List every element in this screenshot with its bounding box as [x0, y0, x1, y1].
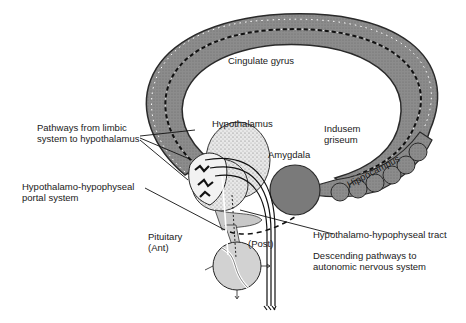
label-pituitary-line2: (Ant) — [148, 242, 169, 253]
amygdala-shape — [270, 165, 320, 215]
label-hypothalamo-hypophyseal-tract: Hypothalamo-hypophyseal tract — [313, 229, 447, 240]
label-hypothalamus: Hypothalamus — [212, 118, 273, 129]
label-descending-line2: autonomic nervous system — [313, 261, 426, 272]
label-cingulate-gyrus: Cingulate gyrus — [228, 55, 294, 66]
label-pathways-line1: Pathways from limbic — [37, 122, 127, 133]
label-indusem-line1: Indusem — [324, 123, 360, 134]
label-descending-line1: Descending pathways to — [313, 250, 417, 261]
label-amygdala: Amygdala — [268, 149, 310, 160]
label-portal-line2: portal system — [22, 192, 79, 203]
label-indusem-line2: griseum — [324, 134, 358, 145]
label-portal-line1: Hypothalamo-hypophyseal — [22, 181, 134, 192]
label-pathways-line2: system to hypothalamus — [37, 133, 139, 144]
label-pituitary-line1: Pituitary — [148, 231, 182, 242]
label-post: (Post) — [248, 238, 273, 249]
